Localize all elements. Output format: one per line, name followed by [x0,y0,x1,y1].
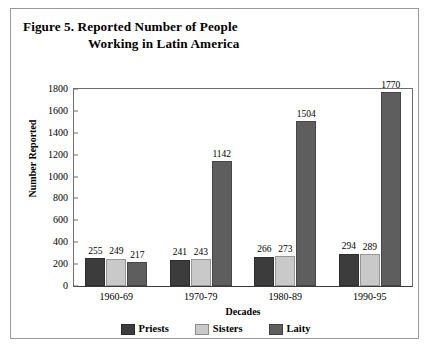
x-tick-label: 1970-79 [184,291,217,302]
y-tick-label: 400 [53,237,74,247]
bar-value-label: 273 [278,245,292,255]
y-tick-label: 800 [53,193,74,203]
y-tick-label: 600 [53,215,74,225]
bar-priests-1980-89[interactable]: 266 [254,89,274,286]
bar-value-label: 217 [130,251,144,261]
bar-value-label: 294 [342,242,356,252]
bar-rect[interactable] [127,262,147,286]
bar-rect[interactable] [106,259,126,286]
bar-rect[interactable] [254,257,274,286]
bar-laity-1990-95[interactable]: 1770 [381,89,401,286]
bar-value-label: 1770 [381,81,400,91]
figure-caption-line-2: Working in Latin America [23,35,403,52]
y-tick-label: 1200 [48,150,74,160]
y-tick-label: 1400 [48,128,74,138]
bar-priests-1990-95[interactable]: 294 [339,89,359,286]
y-tick-label: 200 [53,259,74,269]
bar-value-label: 289 [363,243,377,253]
bar-rect[interactable] [296,121,316,286]
bar-group: 2662731504 [243,89,328,286]
bar-value-label: 243 [194,248,208,258]
bar-priests-1970-79[interactable]: 241 [170,89,190,286]
x-tick-label: 1980-89 [269,291,302,302]
legend-item-priests[interactable]: Priests [121,324,169,335]
bar-sisters-1980-89[interactable]: 273 [275,89,295,286]
bar-priests-1960-69[interactable]: 255 [85,89,105,286]
x-axis-title: Decades [73,306,413,317]
plot-area: 020040060080010001200140016001800 255249… [73,88,413,287]
bar-laity-1980-89[interactable]: 1504 [296,89,316,286]
legend-label: Priests [139,324,169,335]
legend-swatch-icon [269,324,283,335]
figure-caption-line-1: Figure 5. Reported Number of People [23,18,403,35]
x-tick-label: 1960-69 [100,291,133,302]
bar-value-label: 241 [173,248,187,258]
bar-group: 255249217 [74,89,159,286]
bar-value-label: 255 [88,247,102,257]
bar-rect[interactable] [381,92,401,286]
legend-swatch-icon [121,324,135,335]
bar-rect[interactable] [360,254,380,286]
bar-rect[interactable] [339,254,359,286]
bar-group: 2942891770 [328,89,413,286]
legend-item-laity[interactable]: Laity [269,324,311,335]
bar-value-label: 1504 [297,110,316,120]
x-tick-label: 1990-95 [353,291,386,302]
bar-rect[interactable] [212,161,232,286]
legend-label: Laity [287,324,311,335]
bar-rect[interactable] [85,258,105,286]
bar-group: 2412431142 [159,89,244,286]
legend-swatch-icon [195,324,209,335]
bar-rect[interactable] [191,259,211,286]
y-axis-title: Number Reported [27,99,38,219]
y-tick-label: 0 [63,281,74,291]
bar-sisters-1970-79[interactable]: 243 [191,89,211,286]
bar-laity-1960-69[interactable]: 217 [127,89,147,286]
legend-item-sisters[interactable]: Sisters [195,324,243,335]
bar-chart: Number Reported 020040060080010001200140… [11,61,420,340]
bar-value-label: 266 [257,245,271,255]
y-tick-label: 1800 [48,84,74,94]
bar-sisters-1990-95[interactable]: 289 [360,89,380,286]
figure-frame: Figure 5. Reported Number of People Work… [10,8,419,339]
y-tick-label: 1600 [48,106,74,116]
legend-label: Sisters [213,324,243,335]
bar-laity-1970-79[interactable]: 1142 [212,89,232,286]
bars-layer: 255249217241243114226627315042942891770 [74,89,412,286]
y-tick-label: 1000 [48,172,74,182]
bar-rect[interactable] [170,260,190,286]
bar-sisters-1960-69[interactable]: 249 [106,89,126,286]
bar-value-label: 1142 [212,150,231,160]
bar-rect[interactable] [275,256,295,286]
bar-value-label: 249 [109,247,123,257]
chart-legend: PriestsSistersLaity [11,324,420,335]
figure-caption: Figure 5. Reported Number of People Work… [23,18,403,52]
